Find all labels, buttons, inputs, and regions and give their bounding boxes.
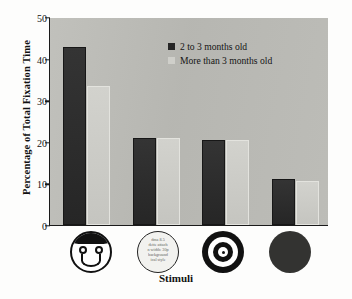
x-tick-icon-scrambled: dma 8.5 dette attach n width: 30p backgr… — [137, 231, 179, 273]
face-eye-right — [95, 246, 103, 254]
bar-scrambled-face-series-0 — [133, 138, 156, 225]
face-hair — [70, 231, 112, 244]
x-tick-icon-bullseye — [202, 231, 244, 273]
legend: 2 to 3 months old More than 3 months old — [168, 40, 272, 67]
bar-solid-disc-series-0 — [272, 179, 295, 225]
legend-swatch-light-icon — [168, 57, 175, 64]
y-axis-tick-label: 30 — [0, 96, 47, 107]
face-eye-left — [79, 246, 87, 254]
bar-scrambled-face-series-1 — [157, 138, 180, 225]
legend-item-1: More than 3 months old — [168, 54, 272, 68]
y-axis-tick-label: 0 — [0, 221, 47, 232]
bar-chart-figure: Percentage of Total Fixation Time 010203… — [0, 0, 352, 299]
y-axis-tick-label: 10 — [0, 179, 47, 190]
legend-label-0: 2 to 3 months old — [180, 40, 247, 54]
legend-label-1: More than 3 months old — [180, 54, 272, 68]
y-axis-tick-label: 50 — [0, 13, 47, 24]
bullseye-icon — [202, 231, 244, 273]
x-tick-icon-disc — [269, 231, 311, 273]
bar-face-series-1 — [87, 86, 110, 225]
solid-disc-icon — [269, 231, 311, 273]
scrambled-text-4: ical style — [141, 257, 175, 262]
bar-bullseye-series-1 — [226, 140, 249, 225]
plot-area: 2 to 3 months old More than 3 months old — [49, 18, 328, 226]
bar-bullseye-series-0 — [202, 140, 225, 225]
legend-swatch-dark-icon — [168, 43, 175, 50]
bar-face-series-0 — [63, 47, 86, 225]
scrambled-face-icon: dma 8.5 dette attach n width: 30p backgr… — [137, 231, 179, 273]
x-axis-title: Stimuli — [0, 272, 352, 284]
face-mouth — [81, 254, 101, 267]
y-axis-tick-label: 40 — [0, 54, 47, 65]
smiley-face-icon — [70, 231, 112, 273]
x-tick-icon-face — [70, 231, 112, 273]
bar-solid-disc-series-1 — [296, 181, 319, 225]
bullseye-center — [222, 251, 225, 254]
legend-item-0: 2 to 3 months old — [168, 40, 272, 54]
y-axis-tick-label: 20 — [0, 137, 47, 148]
